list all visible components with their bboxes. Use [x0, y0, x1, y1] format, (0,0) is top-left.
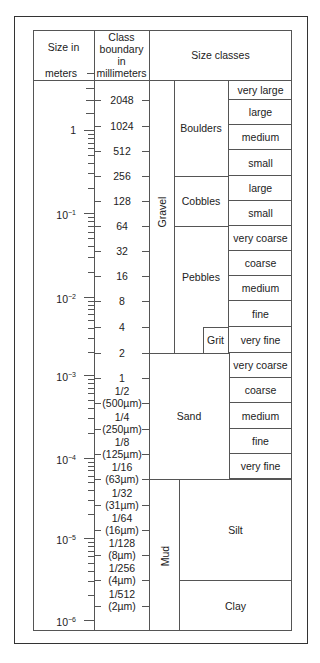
gravel-label: Gravel [156, 193, 168, 231]
boundary-value: 1/128(8µm) [99, 537, 145, 561]
meter-label: 10−4 [44, 452, 76, 466]
meter-tick [88, 134, 94, 135]
boundary-value: 8 [99, 295, 145, 307]
header-class-boundary: Class boundary in millimeters [94, 31, 149, 79]
meter-label: 10−6 [44, 614, 76, 628]
meter-tick [88, 188, 94, 189]
clay-label: Clay [179, 580, 292, 631]
meter-tick [88, 393, 94, 394]
meter-tick [88, 257, 94, 258]
meter-tick [88, 595, 94, 596]
meter-tick [88, 571, 94, 572]
subclass-cell: small [229, 201, 292, 226]
meter-tick [88, 408, 94, 409]
boundary-value: 1024 [99, 120, 145, 132]
meter-tick [88, 338, 94, 339]
boundary-column-divider [149, 30, 150, 631]
boulders-label: Boulders [174, 80, 228, 176]
boundary-value: 2048 [99, 94, 145, 106]
boundary-value: 256 [99, 170, 145, 182]
meter-tick [88, 476, 94, 477]
meter-label: 10−5 [44, 532, 76, 546]
meter-tick [84, 458, 94, 459]
subclass-cell: large [229, 176, 292, 201]
meter-tick [88, 466, 94, 467]
meter-tick [88, 173, 94, 174]
meter-tick [88, 232, 94, 233]
meters-column-divider [94, 30, 95, 631]
boundary-value: 512 [99, 145, 145, 157]
meter-tick [88, 383, 94, 384]
meter-tick [88, 217, 94, 218]
meter-label: 10−2 [44, 291, 76, 305]
meter-tick [88, 556, 94, 557]
meter-label: 10−1 [44, 207, 76, 221]
meter-tick [88, 238, 94, 239]
subclass-cell: medium [229, 276, 292, 301]
grit-label: Grit [203, 327, 228, 353]
meter-tick [88, 470, 94, 471]
meter-tick [88, 163, 94, 164]
meter-tick [88, 305, 94, 306]
meter-tick [88, 138, 94, 139]
boundary-value: 1/512(2µm) [99, 588, 145, 612]
subclass-cell: fine [229, 301, 292, 327]
subclass-cell: small [229, 150, 292, 176]
subclass-cell: large [229, 100, 292, 125]
subclass-cell: very coarse [229, 353, 292, 378]
subclass-cell: medium [229, 403, 292, 429]
boundary-value: 4 [99, 321, 145, 333]
subclass-cell: coarse [229, 251, 292, 276]
header-boundary-line: boundary [94, 43, 149, 55]
meter-tick [88, 314, 94, 315]
meter-tick [88, 320, 94, 321]
header-size-classes: Size classes [149, 30, 292, 80]
meter-tick [88, 418, 94, 419]
header-in-line: in [94, 55, 149, 67]
boundary-value: 1 [99, 372, 145, 384]
meter-tick [88, 551, 94, 552]
silt-label: Silt [179, 479, 292, 580]
boundary-value: 1/64(16µm) [99, 512, 145, 536]
subclass-cell: medium [229, 125, 292, 150]
boundary-value: 2 [99, 347, 145, 359]
meter-tick [86, 88, 94, 89]
meter-tick [84, 375, 94, 376]
boundary-value: 16 [99, 270, 145, 282]
meter-label: 1 [44, 124, 76, 136]
meter-tick [88, 148, 94, 149]
meter-tick [84, 130, 94, 131]
boundary-value: 64 [99, 220, 145, 232]
meter-tick [88, 542, 94, 543]
meter-tick [88, 462, 94, 463]
subclass-cell: very coarse [229, 226, 292, 251]
subclass-cell: very large [229, 80, 292, 100]
meter-tick [86, 113, 94, 114]
boundary-value: 1/2(500µm) [99, 385, 145, 409]
meter-tick [88, 379, 94, 380]
pebbles-label: Pebbles [174, 226, 228, 327]
meter-tick [88, 272, 94, 273]
meter-tick [88, 221, 94, 222]
boundary-value: 128 [99, 195, 145, 207]
header-class-line: Class [94, 31, 149, 43]
meter-tick [84, 538, 94, 539]
meter-tick [88, 328, 94, 329]
header-tick [87, 73, 94, 74]
boundary-value: 32 [99, 245, 145, 257]
mud-label: Mud [159, 536, 171, 576]
meter-tick [84, 213, 94, 214]
subclass-cell: coarse [229, 378, 292, 403]
subclass-cell: very fine [229, 327, 292, 353]
meter-tick [88, 482, 94, 483]
boundary-value: 1/16(63µm) [99, 461, 145, 485]
sand-label: Sand [149, 353, 229, 479]
meter-tick [88, 500, 94, 501]
meter-tick [88, 155, 94, 156]
subclass-cell: very fine [229, 454, 292, 479]
boundary-value: 1/4(250µm) [99, 411, 145, 435]
meter-tick [88, 246, 94, 247]
meter-tick [88, 143, 94, 144]
cobbles-label: Cobbles [174, 176, 228, 226]
meter-tick [88, 400, 94, 401]
